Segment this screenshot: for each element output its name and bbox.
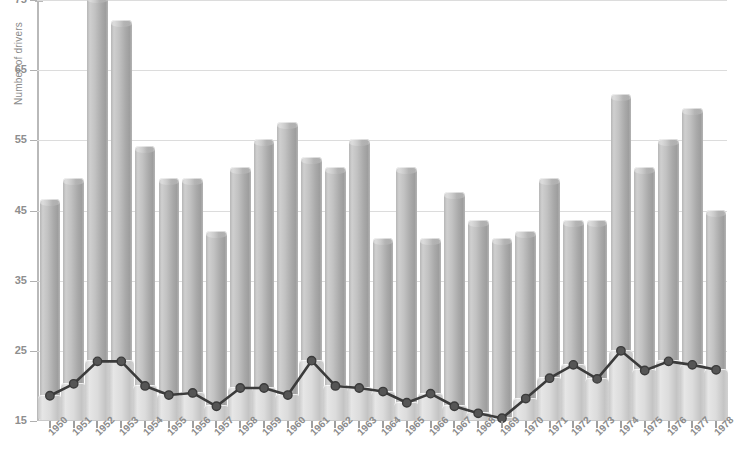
y-tick-label: 65	[1, 63, 27, 75]
y-tick-mark	[30, 70, 37, 71]
line-value-plinth	[656, 360, 681, 420]
y-tick-mark	[30, 421, 37, 422]
bar	[492, 238, 513, 420]
plot-area: 15253545556575 1950195119521953195419551…	[37, 0, 727, 421]
line-value-plinth	[61, 383, 86, 420]
line-value-plinth	[323, 385, 348, 420]
bar	[87, 0, 108, 420]
y-tick-mark	[30, 351, 37, 352]
bar	[159, 178, 180, 420]
gridline-75	[37, 0, 727, 1]
bar	[40, 199, 61, 420]
line-value-plinth	[252, 387, 277, 420]
y-tick-label: 25	[1, 344, 27, 356]
bar	[468, 220, 489, 420]
bar	[349, 139, 370, 420]
line-value-plinth	[299, 360, 324, 420]
line-value-plinth	[109, 360, 134, 420]
line-value-plinth	[680, 364, 705, 420]
bar	[277, 122, 298, 420]
bar	[325, 167, 346, 420]
bar	[135, 146, 156, 420]
line-value-plinth	[632, 369, 657, 420]
y-tick-label: 15	[1, 414, 27, 426]
line-value-plinth	[561, 364, 586, 420]
y-tick-label: 45	[1, 204, 27, 216]
bar	[182, 178, 203, 420]
gridline-65	[37, 70, 727, 71]
bar	[254, 139, 275, 420]
line-value-plinth	[85, 360, 110, 420]
y-tick-mark	[30, 211, 37, 212]
y-tick-mark	[30, 281, 37, 282]
bar	[444, 192, 465, 420]
y-tick-mark	[30, 140, 37, 141]
line-value-plinth	[347, 387, 372, 420]
bar	[396, 167, 417, 420]
line-value-plinth	[609, 350, 634, 420]
line-value-plinth	[585, 378, 610, 420]
line-value-plinth	[537, 377, 562, 420]
line-value-plinth	[704, 369, 729, 420]
line-value-plinth	[228, 387, 253, 420]
y-tick-mark	[30, 0, 37, 1]
bar	[206, 231, 227, 420]
y-tick-label: 35	[1, 274, 27, 286]
bar	[230, 167, 251, 420]
y-tick-label: 75	[1, 0, 27, 5]
bar	[515, 231, 536, 420]
line-value-plinth	[133, 385, 158, 420]
y-tick-label: 55	[1, 133, 27, 145]
